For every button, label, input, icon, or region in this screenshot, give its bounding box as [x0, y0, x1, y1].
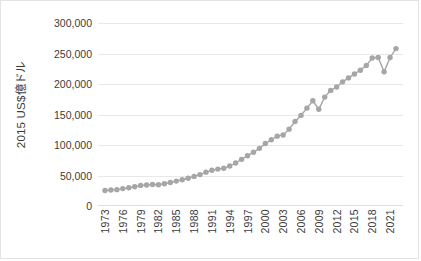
x-tick-label: 1982 — [152, 209, 164, 234]
data-point-marker — [180, 177, 185, 182]
x-tick-label: 2012 — [331, 209, 343, 234]
data-point-marker — [280, 132, 285, 137]
x-tick-label: 1973 — [99, 209, 111, 234]
x-tick-label: 2021 — [384, 209, 396, 234]
data-point-marker — [286, 126, 291, 131]
data-point-marker — [174, 178, 179, 183]
data-point-marker — [227, 163, 232, 168]
data-point-marker — [393, 46, 398, 51]
data-point-marker — [257, 146, 262, 151]
x-tick-label: 2006 — [295, 209, 307, 234]
x-tick-label: 2000 — [259, 209, 271, 234]
data-point-marker — [108, 187, 113, 192]
data-point-marker — [168, 180, 173, 185]
x-tick-label: 1985 — [170, 209, 182, 234]
data-point-marker — [144, 182, 149, 187]
data-point-marker — [263, 141, 268, 146]
x-tick-label: 1976 — [117, 209, 129, 234]
data-point-marker — [150, 182, 155, 187]
data-point-marker — [251, 150, 256, 155]
data-point-marker — [352, 71, 357, 76]
y-axis-tick-labels: 050,000100,000150,000200,000250,000300,0… — [32, 23, 92, 206]
data-point-marker — [215, 166, 220, 171]
data-point-marker — [132, 184, 137, 189]
data-point-marker — [245, 153, 250, 158]
data-point-marker — [334, 84, 339, 89]
data-point-marker — [221, 165, 226, 170]
data-point-marker — [310, 98, 315, 103]
x-tick-label: 2009 — [313, 209, 325, 234]
x-axis-tick-labels: 1973197619791982198519881991199419972000… — [98, 209, 403, 259]
data-point-marker — [102, 188, 107, 193]
y-tick-label: 0 — [34, 200, 92, 212]
data-point-marker — [156, 182, 161, 187]
y-tick-label: 200,000 — [34, 78, 92, 90]
series-line — [105, 49, 396, 191]
data-point-marker — [364, 63, 369, 68]
data-point-marker — [138, 183, 143, 188]
data-point-marker — [203, 169, 208, 174]
y-tick-label: 250,000 — [34, 48, 92, 60]
data-point-marker — [304, 105, 309, 110]
data-point-marker — [185, 176, 190, 181]
y-tick-label: 300,000 — [34, 17, 92, 29]
data-point-marker — [328, 88, 333, 93]
data-point-marker — [346, 75, 351, 80]
data-point-marker — [162, 181, 167, 186]
data-series — [98, 23, 403, 206]
x-tick-label: 1994 — [224, 209, 236, 234]
data-point-marker — [322, 94, 327, 99]
data-point-marker — [197, 172, 202, 177]
x-tick-label: 1997 — [242, 209, 254, 234]
data-point-marker — [239, 157, 244, 162]
data-point-marker — [292, 119, 297, 124]
x-tick-label: 1991 — [206, 209, 218, 234]
chart-container: 2015 US$億ドル 050,000100,000150,000200,000… — [0, 0, 419, 259]
y-tick-label: 100,000 — [34, 139, 92, 151]
x-tick-label: 2015 — [348, 209, 360, 234]
data-point-marker — [387, 55, 392, 60]
data-point-marker — [120, 186, 125, 191]
x-tick-label: 1979 — [135, 209, 147, 234]
data-point-marker — [358, 68, 363, 73]
y-tick-label: 50,000 — [34, 170, 92, 182]
data-point-marker — [316, 107, 321, 112]
x-tick-label: 2018 — [366, 209, 378, 234]
data-point-marker — [275, 133, 280, 138]
data-point-marker — [298, 113, 303, 118]
data-point-marker — [209, 168, 214, 173]
data-point-marker — [114, 187, 119, 192]
y-axis-title: 2015 US$億ドル — [12, 20, 28, 190]
data-point-marker — [233, 160, 238, 165]
data-point-marker — [126, 185, 131, 190]
x-tick-label: 2003 — [277, 209, 289, 234]
data-point-marker — [375, 55, 380, 60]
plot-area — [98, 23, 403, 206]
data-point-marker — [370, 55, 375, 60]
x-tick-label: 1988 — [188, 209, 200, 234]
data-point-marker — [269, 137, 274, 142]
data-point-marker — [381, 69, 386, 74]
data-point-marker — [340, 79, 345, 84]
data-point-marker — [191, 174, 196, 179]
y-tick-label: 150,000 — [34, 109, 92, 121]
